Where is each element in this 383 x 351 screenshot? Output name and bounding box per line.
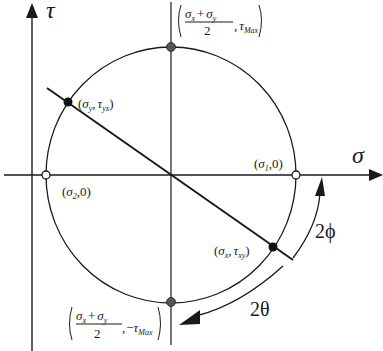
point-neg-tau-max [167,298,176,307]
svg-text:,−τMax: ,−τMax [122,320,153,337]
svg-text:2: 2 [204,23,211,38]
svg-text:(σ1,0): (σ1,0) [254,156,283,173]
svg-text:2: 2 [94,326,101,341]
two-theta-arc: 2θ [179,266,283,325]
two-phi-label: 2ϕ [315,220,336,243]
label-sigma-2: (σ2,0) [62,184,91,201]
tau-axis-label: τ [46,0,56,23]
tau-axis-arrow-icon [26,3,38,18]
svg-text:,τMax: ,τMax [234,18,259,35]
label-tau-max: σx+σy 2 ,τMax [179,5,262,38]
label-sigma-x-tau-xy: (σx,τxy) [214,243,250,260]
diameter-line [47,88,293,260]
point-sigma-1 [292,171,300,179]
svg-text:σx+σy: σx+σy [76,308,108,325]
point-tau-max [167,43,176,52]
two-phi-arrowhead-icon [315,177,325,196]
svg-text:σx+σy: σx+σy [185,6,217,23]
sigma-axis-label: σ [352,142,365,168]
label-neg-tau-max: σx+σy 2 ,−τMax [70,307,161,341]
sigma-axis-arrow-icon [369,169,383,181]
point-sigma-y-tau-yx [64,98,73,107]
two-theta-arrowhead-icon [179,310,200,325]
point-sigma-x-tau-xy [269,243,278,252]
label-sigma-y-tau-yx: (σy,τyx) [78,96,114,113]
two-phi-arc: 2ϕ [293,177,336,258]
point-sigma-2 [42,171,50,179]
sigma-axis: σ [4,142,383,181]
two-theta-label: 2θ [250,298,270,320]
mohr-circle-diagram: σ τ 2ϕ 2θ (σy,τyx) (σx,τxy) (σ1,0) [0,0,383,351]
svg-text:(σx,τxy): (σx,τxy) [214,243,250,260]
svg-text:(σ2,0): (σ2,0) [62,184,91,201]
label-sigma-1: (σ1,0) [254,156,283,173]
svg-text:(σy,τyx): (σy,τyx) [78,96,114,113]
